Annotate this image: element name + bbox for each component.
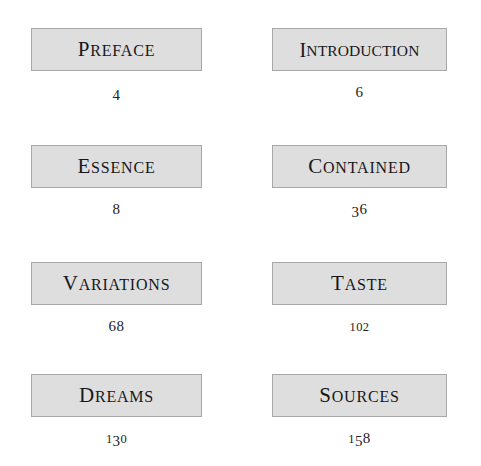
- toc-entry: PREFACE 4: [30, 27, 203, 100]
- toc-entry: VARIATIONS 68: [30, 261, 203, 334]
- chapter-button-variations[interactable]: VARIATIONS: [30, 261, 203, 306]
- toc-entry: CONTAINED 36: [271, 144, 448, 217]
- chapter-button-contained[interactable]: CONTAINED: [271, 144, 448, 189]
- chapter-label: INTRODUCTION: [300, 40, 420, 60]
- chapter-button-preface[interactable]: PREFACE: [30, 27, 203, 72]
- toc-entry: SOURCES 158: [271, 373, 448, 446]
- table-of-contents-grid: PREFACE 4 INTRODUCTION 6 ESSENCE 8 CONTA…: [0, 0, 481, 466]
- toc-entry: INTRODUCTION 6: [271, 27, 448, 100]
- page-number: 158: [271, 430, 448, 446]
- chapter-label: VARIATIONS: [63, 273, 171, 294]
- chapter-button-essence[interactable]: ESSENCE: [30, 144, 203, 189]
- toc-entry: ESSENCE 8: [30, 144, 203, 217]
- chapter-label: SOURCES: [319, 385, 399, 406]
- chapter-button-sources[interactable]: SOURCES: [271, 373, 448, 418]
- chapter-label: TASTE: [331, 273, 388, 294]
- chapter-label: CONTAINED: [308, 156, 411, 177]
- page-number: 130: [30, 430, 203, 446]
- page-number: 8: [30, 201, 203, 217]
- toc-entry: TASTE 102: [271, 261, 448, 334]
- chapter-label: DREAMS: [79, 385, 154, 406]
- page-number: 68: [30, 318, 203, 334]
- chapter-button-taste[interactable]: TASTE: [271, 261, 448, 306]
- chapter-button-dreams[interactable]: DREAMS: [30, 373, 203, 418]
- chapter-button-introduction[interactable]: INTRODUCTION: [271, 27, 448, 72]
- page-number: 4: [30, 84, 203, 100]
- chapter-label: ESSENCE: [77, 156, 155, 177]
- page-number: 6: [271, 84, 448, 100]
- chapter-label: PREFACE: [78, 39, 155, 60]
- toc-entry: DREAMS 130: [30, 373, 203, 446]
- page-number: 36: [271, 201, 448, 217]
- page-number: 102: [271, 318, 448, 334]
